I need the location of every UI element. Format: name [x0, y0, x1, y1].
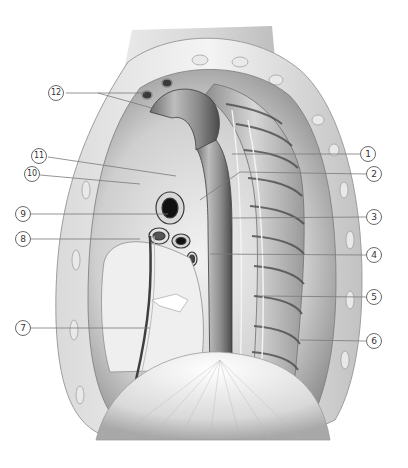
- callout-4: 4: [366, 247, 382, 263]
- callout-5: 5: [366, 289, 382, 305]
- callout-10: 10: [24, 166, 40, 182]
- callout-9: 9: [15, 206, 31, 222]
- callout-8: 8: [15, 231, 31, 247]
- anatomical-illustration: 1 2 3 4 5 6 7 8 9 10 11 12: [0, 0, 408, 468]
- thorax-drawing: [0, 0, 408, 468]
- callout-11: 11: [31, 148, 47, 164]
- callout-3: 3: [366, 209, 382, 225]
- callout-12: 12: [48, 85, 64, 101]
- callout-2: 2: [366, 166, 382, 182]
- callout-7: 7: [15, 320, 31, 336]
- callout-1: 1: [360, 146, 376, 162]
- callout-6: 6: [366, 333, 382, 349]
